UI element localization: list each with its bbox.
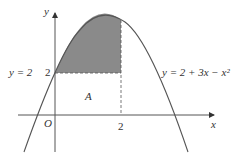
line-label: y = 2 bbox=[9, 67, 32, 78]
y-tick-label: 2 bbox=[45, 67, 51, 78]
x-axis-label: x bbox=[211, 119, 216, 130]
y-axis-label: y bbox=[44, 6, 49, 17]
region-label: A bbox=[85, 91, 92, 102]
graph bbox=[0, 0, 232, 164]
curve-label: y = 2 + 3x − x² bbox=[162, 67, 230, 78]
origin-label: O bbox=[44, 118, 52, 129]
x-tick-label: 2 bbox=[118, 121, 124, 132]
